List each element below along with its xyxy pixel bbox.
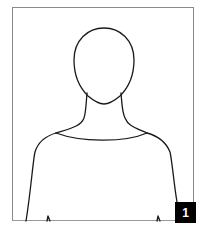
head-outline xyxy=(74,28,134,104)
collar-line xyxy=(56,133,147,140)
neck-right xyxy=(121,93,147,133)
crease-left xyxy=(47,216,50,221)
head-shoulders-outline xyxy=(0,0,202,232)
torso-right xyxy=(147,133,177,202)
neck-left xyxy=(56,93,87,133)
torso-left xyxy=(26,133,56,221)
crease-right xyxy=(157,216,160,221)
number-badge: 1 xyxy=(175,202,196,223)
